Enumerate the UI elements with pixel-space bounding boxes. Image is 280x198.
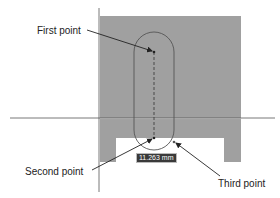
gray-block <box>100 16 241 162</box>
third-point-label: Third point <box>218 178 265 190</box>
drawing-canvas: First point Second point Third point 11.… <box>0 0 280 198</box>
first-point-marker[interactable] <box>153 51 156 54</box>
first-point-label: First point <box>37 25 81 37</box>
third-point-marker[interactable] <box>173 141 176 144</box>
second-point-marker[interactable] <box>153 137 156 140</box>
dimension-input-box[interactable]: 11.263 mm <box>136 153 177 163</box>
second-point-label: Second point <box>25 166 83 178</box>
third-point-leader <box>176 143 220 176</box>
